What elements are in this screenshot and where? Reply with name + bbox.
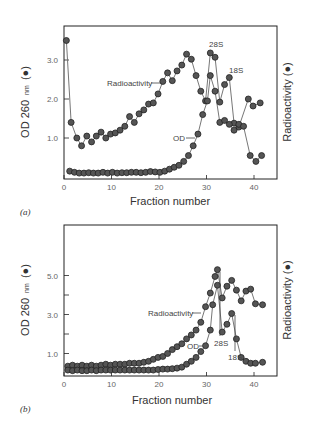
data-point: [203, 304, 209, 310]
data-point: [74, 135, 80, 141]
x-tick-label: 40: [250, 380, 259, 389]
data-point: [169, 78, 175, 84]
x-tick-label: 30: [202, 183, 211, 192]
data-point: [229, 311, 235, 317]
x-axis-title-b: Fraction number: [132, 394, 212, 406]
x-tick-label: 20: [155, 183, 164, 192]
chart-figure: 1.02.03.0 010203040 Fraction number OD 2…: [0, 0, 312, 421]
data-point: [185, 153, 191, 159]
data-point: [79, 143, 85, 149]
annotation-28s-a: 28S: [209, 40, 223, 49]
plot-frame-a: [64, 26, 277, 179]
y-ticks-b: 1.03.05.0: [47, 272, 69, 359]
data-point: [193, 354, 199, 360]
data-point: [212, 54, 218, 60]
data-point: [193, 73, 199, 79]
data-point: [252, 360, 258, 366]
x-tick-label: 20: [155, 380, 164, 389]
data-point: [253, 158, 259, 164]
data-point: [204, 98, 210, 104]
annotation-18s-b: 18S: [228, 353, 242, 362]
data-point: [181, 158, 187, 164]
y2-axis-title-a: Radioactivity (●): [281, 62, 293, 141]
data-point: [238, 298, 244, 304]
data-point: [233, 287, 239, 293]
data-point: [127, 114, 133, 120]
data-point: [179, 62, 185, 68]
data-point: [224, 321, 230, 327]
chart-panel-a: 1.02.03.0 010203040 Fraction number OD 2…: [19, 26, 293, 217]
data-point: [68, 119, 74, 125]
x-tick-label: 40: [250, 183, 259, 192]
panel-label-a: (a): [20, 207, 31, 217]
y-tick-label: 3.0: [47, 56, 59, 65]
annotation-18s-a: 18S: [229, 66, 243, 75]
data-point: [207, 50, 213, 56]
data-point: [193, 327, 199, 333]
annotation-radioactivity-a: Radioactivity: [107, 79, 152, 88]
chart-panel-b: 1.03.05.0 010203040 Fraction number OD 2…: [19, 225, 293, 414]
data-point: [226, 75, 232, 81]
data-point: [207, 290, 213, 296]
data-point: [141, 107, 147, 113]
data-point: [188, 332, 194, 338]
data-point: [252, 301, 258, 307]
data-point: [226, 121, 232, 127]
data-point: [200, 112, 206, 118]
data-point: [260, 302, 266, 308]
data-point: [247, 153, 253, 159]
data-point: [84, 133, 90, 139]
data-point: [179, 341, 185, 347]
y-tick-label: 3.0: [47, 311, 59, 320]
data-point: [207, 327, 213, 333]
annotation-od-a: OD: [173, 134, 185, 143]
data-point: [231, 127, 237, 133]
data-point: [188, 56, 194, 62]
data-point: [160, 78, 166, 84]
series-lines-a: [66, 41, 261, 174]
data-point: [165, 70, 171, 76]
panel-label-b: (b): [20, 404, 31, 414]
data-point: [98, 129, 104, 135]
y-tick-label: 1.0: [47, 134, 59, 143]
x-tick-label: 0: [62, 380, 67, 389]
series-points-a: [63, 38, 264, 177]
data-point: [217, 99, 223, 105]
x-tick-label: 30: [202, 380, 211, 389]
data-point: [89, 139, 95, 145]
x-ticks-b: 010203040: [62, 372, 259, 389]
data-point: [241, 123, 247, 129]
data-point: [198, 88, 204, 94]
data-point: [174, 68, 180, 74]
x-tick-label: 0: [62, 183, 67, 192]
data-point: [212, 273, 218, 279]
y-tick-label: 5.0: [47, 272, 59, 281]
annotation-28s-b: 28S: [214, 339, 228, 348]
data-point: [214, 282, 220, 288]
data-point: [190, 143, 196, 149]
data-point: [198, 319, 204, 325]
data-point: [63, 38, 69, 44]
x-tick-label: 10: [107, 380, 116, 389]
data-point: [131, 119, 137, 125]
x-tick-label: 10: [107, 183, 116, 192]
y-tick-label: 2.0: [47, 95, 59, 104]
data-point: [259, 153, 265, 159]
annotation-od-b: OD: [187, 342, 199, 351]
data-point: [250, 103, 256, 109]
y-tick-label: 1.0: [47, 350, 59, 359]
data-point: [184, 51, 190, 57]
data-point: [155, 91, 161, 97]
data-point: [207, 73, 213, 79]
annotation-radioactivity-b: Radioactivity: [148, 309, 193, 318]
data-point: [245, 96, 251, 102]
data-point: [257, 100, 263, 106]
data-point: [224, 283, 230, 289]
data-point: [229, 277, 235, 283]
data-point: [233, 336, 239, 342]
x-axis-title-a: Fraction number: [130, 195, 210, 207]
data-point: [248, 286, 254, 292]
data-point: [210, 302, 216, 308]
y-axis-title-a: OD 260 nm (●): [19, 66, 31, 138]
data-point: [212, 88, 218, 94]
